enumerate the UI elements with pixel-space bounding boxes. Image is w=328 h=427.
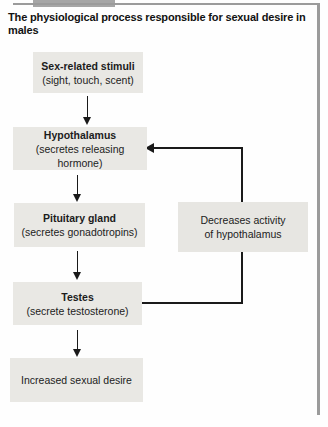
box-heading: Hypothalamus <box>44 128 116 142</box>
feedback-line-bottom <box>135 302 243 304</box>
flow-box-testes: Testes (secrete testosterone) <box>13 282 142 325</box>
flow-box-sex-related-stimuli: Sex-related stimuli (sight, touch, scent… <box>33 52 143 93</box>
box-heading: Pituitary gland <box>43 211 116 225</box>
figure-border-top <box>13 3 319 5</box>
feedback-label-line1: Decreases activity <box>200 213 285 227</box>
feedback-label-line2: of hypothalamus <box>204 227 281 241</box>
figure-canvas: The physiological process responsible fo… <box>0 0 328 427</box>
flow-box-hypothalamus: Hypothalamus (secretes releasing hormone… <box>13 127 147 170</box>
box-subtext: (secrete testosterone) <box>26 304 128 318</box>
down-arrowhead-icon <box>73 349 81 357</box>
box-subtext: (secretes releasing hormone) <box>13 142 147 170</box>
box-heading: Sex-related stimuli <box>41 59 134 73</box>
down-arrow-stimuli-to-hypothalamus <box>83 96 92 125</box>
down-arrow-hypothalamus-to-pituitary <box>73 175 82 202</box>
feedback-line-top <box>153 147 243 149</box>
flow-box-increased-sexual-desire: Increased sexual desire <box>10 358 143 402</box>
down-arrow-testes-to-desire <box>73 330 82 357</box>
down-arrow-pituitary-to-testes <box>73 251 82 280</box>
figure-border-right <box>317 3 320 415</box>
down-arrowhead-icon <box>73 194 81 202</box>
box-subtext: (secretes gonadotropins) <box>21 225 137 239</box>
flow-box-pituitary-gland: Pituitary gland (secretes gonadotropins) <box>14 203 145 247</box>
box-text: Increased sexual desire <box>21 373 132 387</box>
figure-title: The physiological process responsible fo… <box>8 11 316 37</box>
box-heading: Testes <box>61 290 94 304</box>
down-arrowhead-icon <box>83 117 91 125</box>
box-subtext: (sight, touch, scent) <box>42 73 134 87</box>
feedback-box-decreases-activity: Decreases activity of hypothalamus <box>178 202 308 252</box>
down-arrowhead-icon <box>73 272 81 280</box>
